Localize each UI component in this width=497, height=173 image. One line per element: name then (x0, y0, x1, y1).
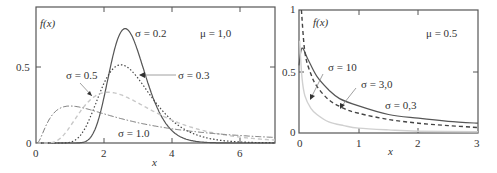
label-sigma-0-5: σ = 0.5 (66, 70, 97, 81)
left-ytick-0-5: 0.5 (16, 62, 30, 73)
label-sigma-0-2: σ = 0.2 (135, 28, 166, 39)
label-sigma-1-0: σ = 1.0 (118, 128, 149, 139)
label-sigma-0-3-right: σ = 0,3 (385, 100, 416, 111)
left-ylabel: f(x) (40, 18, 55, 29)
left-ytick-0: 0 (26, 138, 32, 149)
right-ylabel: f(x) (313, 17, 328, 28)
label-sigma-0-3: σ = 0.3 (178, 70, 209, 81)
left-xtick-6: 6 (237, 148, 243, 159)
arrow-s10 (311, 74, 323, 98)
left-xtick-4: 4 (169, 148, 175, 159)
curve-0-5 (37, 92, 275, 143)
left-curves (37, 29, 275, 143)
arrowhead-s03 (139, 72, 145, 78)
right-xtick-3: 3 (474, 138, 480, 149)
chart-canvas (0, 0, 497, 173)
right-xtick-2: 2 (415, 138, 421, 149)
right-mu-label: μ = 0.5 (426, 28, 457, 39)
left-mu-label: μ = 1,0 (200, 28, 231, 39)
right-ytick-1: 1 (290, 4, 296, 15)
left-xtick-0: 0 (33, 148, 39, 159)
right-xlabel: x (388, 146, 393, 157)
right-xtick-1: 1 (356, 138, 362, 149)
label-sigma-10: σ = 10 (328, 62, 357, 73)
right-xtick-0: 0 (297, 138, 303, 149)
left-xlabel: x (152, 157, 157, 168)
right-ytick-0: 0 (290, 127, 296, 138)
label-sigma-3-0: σ = 3,0 (361, 79, 392, 90)
left-xtick-2: 2 (101, 148, 107, 159)
right-ytick-0-5: 0.5 (282, 67, 296, 78)
